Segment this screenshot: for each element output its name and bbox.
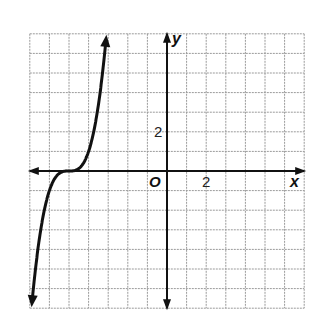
origin-label: O bbox=[149, 173, 161, 190]
x-tick-label-2: 2 bbox=[202, 173, 210, 190]
y-tick-label-2: 2 bbox=[154, 123, 162, 140]
y-axis-label: y bbox=[171, 30, 182, 47]
graph: y x O 2 2 bbox=[0, 0, 317, 329]
x-axis-label: x bbox=[289, 173, 300, 190]
